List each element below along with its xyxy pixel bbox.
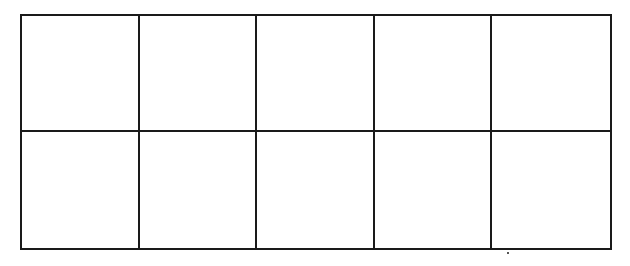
grid-cell bbox=[257, 132, 375, 248]
grid-cell bbox=[140, 132, 258, 248]
grid-cell bbox=[375, 132, 493, 248]
grid-cell bbox=[492, 16, 610, 132]
grid-cell bbox=[22, 132, 140, 248]
grid-cell bbox=[375, 16, 493, 132]
ten-frame-grid bbox=[20, 14, 612, 250]
grid-cell bbox=[22, 16, 140, 132]
grid-cell bbox=[140, 16, 258, 132]
grid-cell bbox=[492, 132, 610, 248]
scan-speck bbox=[507, 252, 509, 254]
grid-cell bbox=[257, 16, 375, 132]
